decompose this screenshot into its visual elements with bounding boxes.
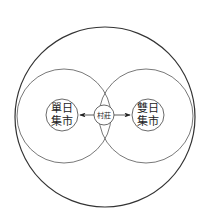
- double-day-market-line1: 雙日: [137, 102, 159, 115]
- double-day-market-line2: 集市: [137, 114, 159, 128]
- single-day-market-line2: 集市: [51, 114, 73, 128]
- node-single-day-market: 單日 集市: [46, 99, 78, 131]
- market-diagram: 單日 集市 村莊 雙日 集市: [0, 0, 207, 223]
- node-village: 村莊: [94, 105, 114, 125]
- single-day-market-line1: 單日: [51, 102, 73, 115]
- diagram-canvas: 單日 集市 村莊 雙日 集市: [0, 0, 207, 223]
- village-label: 村莊: [97, 111, 111, 120]
- node-double-day-market: 雙日 集市: [132, 99, 164, 131]
